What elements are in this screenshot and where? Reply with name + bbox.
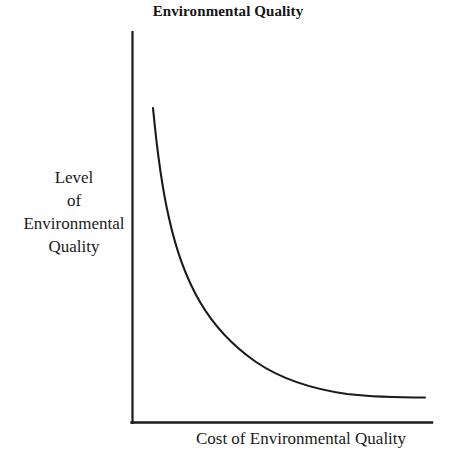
y-axis-label-line-4: Quality: [8, 235, 140, 258]
y-axis-label: Level of Environmental Quality: [8, 166, 140, 258]
x-axis-label: Cost of Environmental Quality: [132, 429, 456, 449]
y-axis-label-line-2: of: [8, 189, 140, 212]
data-series-curve: [153, 108, 425, 398]
chart-figure: Environmental Quality Level of Environme…: [0, 0, 456, 453]
y-axis-label-line-3: Environmental: [8, 212, 140, 235]
y-axis-label-line-1: Level: [8, 166, 140, 189]
